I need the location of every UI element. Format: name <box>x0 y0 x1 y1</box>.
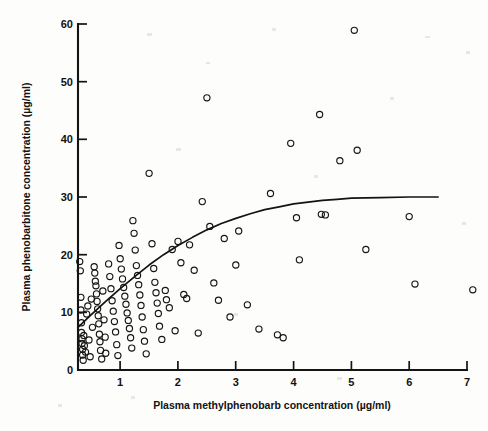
y-tick-label: 30 <box>61 191 73 203</box>
data-point <box>128 335 134 341</box>
data-point <box>195 330 201 336</box>
data-point <box>143 351 149 357</box>
x-tick-label: 5 <box>348 376 354 388</box>
data-point <box>363 246 369 252</box>
data-point <box>117 256 123 262</box>
data-point <box>317 111 323 117</box>
data-point <box>211 280 217 286</box>
data-point <box>129 345 135 351</box>
data-point <box>159 336 165 342</box>
y-axis-tick-labels: 60 50 40 30 20 10 0 <box>61 18 73 376</box>
scan-artifacts <box>58 28 470 407</box>
data-point <box>125 317 131 323</box>
data-point <box>149 241 155 247</box>
data-point <box>95 313 101 319</box>
y-tick-label: 50 <box>61 76 73 88</box>
data-point <box>215 297 221 303</box>
data-point <box>138 302 144 308</box>
data-point <box>123 301 129 307</box>
data-point <box>186 242 192 248</box>
y-axis-title: Plasma phenobarbitone concentration (µg/… <box>20 83 32 312</box>
data-point <box>122 293 128 299</box>
data-point <box>155 310 161 316</box>
data-point <box>112 329 118 335</box>
data-point <box>107 273 113 279</box>
data-point <box>199 199 205 205</box>
data-point <box>204 95 210 101</box>
data-point <box>153 290 159 296</box>
data-point <box>101 317 107 323</box>
data-point <box>166 305 172 311</box>
data-point <box>100 288 106 294</box>
data-point <box>137 292 143 298</box>
data-point <box>151 265 157 271</box>
data-point <box>412 281 418 287</box>
data-point <box>406 214 412 220</box>
data-point <box>236 228 242 234</box>
x-tick-label: 2 <box>175 376 181 388</box>
data-point <box>172 328 178 334</box>
x-axis-ticks <box>120 361 467 370</box>
data-point <box>93 283 99 289</box>
data-point <box>124 310 130 316</box>
x-tick-label: 4 <box>291 376 298 388</box>
data-point <box>274 332 280 338</box>
data-point <box>115 352 121 358</box>
data-point <box>91 264 97 270</box>
data-points-group <box>77 27 476 363</box>
data-point <box>156 323 162 329</box>
data-point <box>136 282 142 288</box>
x-axis-tick-labels: 1 2 3 4 5 6 7 <box>117 376 470 388</box>
scatter-plot: 60 50 40 30 20 10 0 1 2 3 4 5 6 7 <box>0 0 488 431</box>
data-point <box>108 286 114 292</box>
data-point <box>322 212 328 218</box>
data-point <box>132 247 138 253</box>
data-point <box>163 297 169 303</box>
y-tick-label: 60 <box>61 18 73 30</box>
data-point <box>87 354 93 360</box>
data-point <box>244 302 250 308</box>
data-point <box>97 339 103 345</box>
data-point <box>154 300 160 306</box>
data-point <box>93 291 99 297</box>
data-point <box>296 257 302 263</box>
data-point <box>337 158 343 164</box>
data-point <box>351 27 357 33</box>
data-point <box>92 270 98 276</box>
data-point <box>126 325 132 331</box>
data-point <box>139 314 145 320</box>
data-point <box>293 215 299 221</box>
data-point <box>280 335 286 341</box>
y-tick-label: 0 <box>67 364 73 376</box>
data-point <box>116 242 122 248</box>
data-point <box>85 303 91 309</box>
data-point <box>152 279 158 285</box>
x-axis-title: Plasma methylphenobarb concentration (µg… <box>153 399 391 411</box>
data-point <box>131 230 137 236</box>
y-tick-label: 10 <box>61 306 73 318</box>
data-point <box>470 287 476 293</box>
data-point <box>141 338 147 344</box>
data-point <box>86 337 92 343</box>
y-tick-label: 20 <box>61 249 73 261</box>
data-point <box>288 140 294 146</box>
data-point <box>233 262 239 268</box>
data-point <box>267 190 273 196</box>
x-tick-label: 6 <box>406 376 412 388</box>
x-tick-label: 3 <box>233 376 239 388</box>
data-point <box>130 218 136 224</box>
data-point <box>106 261 112 267</box>
figure-canvas: 60 50 40 30 20 10 0 1 2 3 4 5 6 7 <box>0 0 488 431</box>
data-point <box>221 235 227 241</box>
data-point <box>103 350 109 356</box>
data-point <box>102 334 108 340</box>
data-point <box>96 331 102 337</box>
data-point <box>94 298 100 304</box>
data-point <box>191 267 197 273</box>
data-point <box>99 356 105 362</box>
x-tick-label: 7 <box>464 376 470 388</box>
data-point <box>114 342 120 348</box>
y-tick-label: 40 <box>61 133 73 145</box>
y-axis-ticks <box>78 24 87 370</box>
data-point <box>118 266 124 272</box>
